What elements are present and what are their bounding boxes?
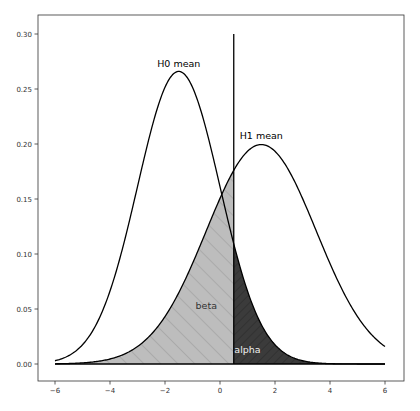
y-tick-label: 0.25 [16,86,32,94]
annotation-h0-mean: H0 mean [157,58,200,69]
x-tick-label: 0 [218,387,222,395]
x-tick-label: 4 [328,387,333,395]
y-tick-label: 0.30 [16,31,32,39]
x-tick-label: −4 [105,387,116,395]
annotation-h1-mean: H1 mean [240,130,283,141]
y-tick-label: 0.20 [16,141,32,149]
annotation-alpha: alpha [234,344,260,355]
hypothesis-test-chart: H0 meanH1 meanbetaalpha −6−4−20246 0.000… [0,0,420,411]
beta-hatch [55,170,234,364]
y-axis: 0.000.050.100.150.200.250.30 [16,31,38,369]
y-tick-label: 0.10 [16,251,32,259]
x-tick-label: −2 [160,387,170,395]
x-tick-label: 6 [383,387,388,395]
x-axis: −6−4−20246 [50,381,388,395]
y-tick-label: 0.15 [16,196,32,204]
x-tick-label: 2 [273,387,277,395]
y-tick-label: 0.05 [16,306,32,314]
x-tick-label: −6 [50,387,61,395]
y-tick-label: 0.00 [16,361,32,369]
plot-area [55,34,385,364]
annotation-beta: beta [196,300,217,311]
